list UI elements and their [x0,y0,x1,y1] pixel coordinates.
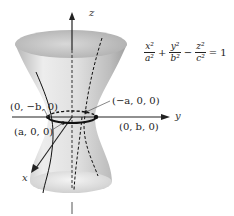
term-y: y² b² [169,42,180,63]
y-axis-arrow-icon [161,114,170,120]
bottom-ellipse [30,171,112,193]
label-nega-0-0: (−a, 0, 0) [112,96,160,106]
label-a-0-0: (a, 0, 0) [14,127,53,137]
z-axis-arrow-icon [69,12,75,20]
label-0-negb-0: (0, −b, 0) [10,102,58,112]
top-ellipse [15,30,127,58]
y-axis-label: y [175,111,181,121]
op-plus: + [158,47,166,58]
x-axis-label: x [22,173,28,183]
term-x: x² a² [144,42,155,63]
op-minus: − [184,47,192,58]
hyperboloid-diagram: z y x (0, −b, 0) (−a, 0, 0) (a, 0, 0) (0… [0,0,234,216]
term-z: z² c² [195,42,206,63]
point-0-b-0 [94,115,98,119]
hyperboloid-surface [15,44,127,182]
z-axis-label: z [89,8,94,18]
op-equals: = 1 [209,47,227,58]
label-0-b-0: (0, b, 0) [119,122,159,132]
hyperboloid-equation: x² a² + y² b² − z² c² = 1 [144,42,227,63]
